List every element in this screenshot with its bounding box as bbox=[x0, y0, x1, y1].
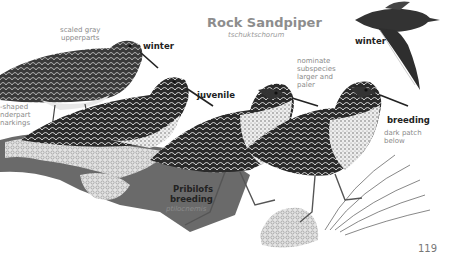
page-number: 119 bbox=[418, 243, 437, 254]
species-title: Rock Sandpiper bbox=[207, 15, 322, 30]
plumage-winter-flight: winter bbox=[355, 36, 386, 46]
field-guide-page: Rock Sandpiper tschuktschorum scaled gra… bbox=[0, 0, 450, 262]
subspecies-name: tschuktschorum bbox=[228, 31, 284, 39]
plumage-juvenile: juvenile bbox=[197, 90, 235, 100]
label-nominate-subspecies: nominate subspecies larger and paler bbox=[297, 57, 336, 89]
label-dark-patch: dark patch below bbox=[384, 129, 422, 145]
label-scaled-gray: scaled gray upperparts bbox=[60, 26, 100, 42]
plumage-breeding: breeding bbox=[387, 115, 430, 125]
label-underpart-markings: -shaped nderpart narkings bbox=[0, 103, 30, 127]
plumage-pribilofs-breeding: Pribilofs breeding bbox=[170, 184, 213, 204]
plumage-winter: winter bbox=[143, 41, 174, 51]
subspecies-ptilocnemis: ptilocnemis bbox=[166, 205, 206, 213]
